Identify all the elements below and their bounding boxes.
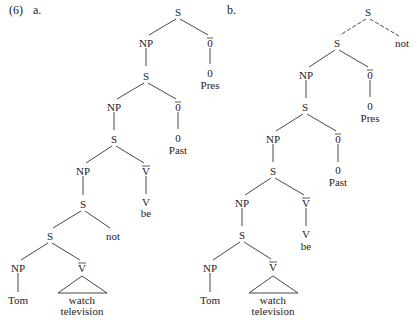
node-v-bar: V: [78, 262, 86, 274]
edge: [52, 243, 80, 260]
node-np: NP: [11, 262, 25, 274]
edge: [148, 83, 176, 99]
tree-b: S S not NP 0 0 Pres S NP 0 0 Past S NP V…: [200, 6, 409, 317]
edge: [339, 50, 368, 67]
node-s: S: [334, 37, 340, 49]
edge: [116, 146, 144, 163]
triangle-abbreviation: [58, 276, 107, 293]
edge: [275, 178, 304, 195]
edge: [276, 114, 303, 131]
node-0-bar: 0: [367, 69, 373, 81]
node-v-bar: V: [269, 261, 277, 273]
node-v-bar: V: [142, 165, 150, 177]
node-0: 0: [335, 164, 341, 176]
node-0-bar: 0: [175, 101, 181, 113]
tree-a: S NP 0 0 Pres S NP 0 0 Past S NP V V be …: [8, 6, 219, 317]
node-pres: Pres: [361, 112, 380, 124]
node-0-bar: 0: [207, 37, 213, 49]
node-be: be: [301, 240, 312, 252]
node-0: 0: [207, 67, 213, 79]
node-be: be: [141, 207, 152, 219]
edge: [245, 178, 271, 195]
edge: [86, 146, 112, 163]
node-s: S: [302, 101, 308, 113]
syntax-tree-diagram: (6) a. b. S NP 0 0 Pres S NP 0 0 Past: [0, 0, 417, 328]
node-pres: Pres: [201, 79, 220, 91]
edge: [21, 243, 48, 260]
edge: [180, 19, 208, 35]
node-s: S: [47, 230, 53, 242]
dashed-edge: [340, 19, 366, 35]
node-s: S: [143, 70, 149, 82]
edge: [53, 211, 81, 228]
node-s: S: [270, 165, 276, 177]
node-past: Past: [329, 176, 347, 188]
node-not: not: [106, 230, 120, 242]
node-np: NP: [299, 69, 313, 81]
node-s-root: S: [175, 6, 181, 18]
node-television: television: [252, 305, 295, 317]
dashed-edge: [370, 19, 399, 36]
edge: [149, 19, 176, 35]
node-past: Past: [169, 144, 187, 156]
node-television: television: [61, 305, 104, 317]
tree-a-label: a.: [33, 3, 41, 17]
node-np: NP: [76, 165, 90, 177]
node-s: S: [239, 229, 245, 241]
node-np: NP: [139, 37, 153, 49]
edge: [117, 83, 144, 99]
edge: [309, 50, 335, 67]
node-np: NP: [107, 101, 121, 113]
node-not: not: [395, 37, 409, 49]
triangle-abbreviation: [249, 276, 298, 293]
node-s: S: [80, 198, 86, 210]
node-v-bar: V: [302, 197, 310, 209]
node-np: NP: [235, 197, 249, 209]
node-tom: Tom: [200, 294, 220, 306]
node-0: 0: [367, 100, 373, 112]
example-number: (6): [9, 3, 23, 17]
node-s-root: S: [365, 6, 371, 18]
node-v: V: [302, 228, 310, 240]
node-np: NP: [203, 262, 217, 274]
node-0: 0: [175, 132, 181, 144]
node-tom: Tom: [8, 294, 28, 306]
edge: [85, 211, 110, 228]
tree-b-label: b.: [227, 3, 236, 17]
node-0-bar: 0: [335, 133, 341, 145]
node-np: NP: [266, 133, 280, 145]
edge: [213, 242, 240, 260]
edge: [244, 242, 271, 259]
edge: [307, 114, 336, 131]
node-s: S: [111, 133, 117, 145]
